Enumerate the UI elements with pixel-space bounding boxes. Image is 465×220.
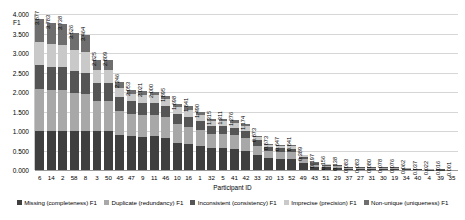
bar-stack[interactable]: 3.738	[58, 24, 67, 170]
bar-stack[interactable]: 0.083	[356, 167, 365, 170]
bar-stack[interactable]: 2.809	[104, 60, 113, 170]
bar-segment[interactable]	[138, 103, 147, 115]
bar-segment[interactable]	[81, 131, 90, 170]
bar-segment[interactable]	[276, 159, 285, 170]
bar-stack[interactable]: 2.021	[138, 91, 147, 170]
bar-column[interactable]: 1.641	[183, 14, 194, 170]
bar-segment[interactable]	[35, 65, 44, 89]
bar-segment[interactable]	[219, 148, 228, 170]
bar-segment[interactable]	[196, 121, 205, 130]
bar-segment[interactable]	[241, 138, 250, 151]
bar-segment[interactable]	[253, 155, 262, 170]
bar-segment[interactable]	[115, 97, 124, 111]
bar-stack[interactable]: 1.311	[219, 119, 228, 170]
bar-column[interactable]: 0.156	[320, 14, 331, 170]
bar-stack[interactable]: 2.053	[127, 90, 136, 170]
bar-stack[interactable]: 0.673	[264, 144, 273, 170]
legend-item[interactable]: Inconsistent (consistency) F1	[190, 199, 276, 206]
bar-segment[interactable]	[207, 134, 216, 148]
bar-column[interactable]: 2.021	[137, 14, 148, 170]
bar-column[interactable]: 0.873	[252, 14, 263, 170]
bar-segment[interactable]	[150, 115, 159, 136]
bar-segment[interactable]	[150, 136, 159, 170]
bar-segment[interactable]	[58, 67, 67, 90]
bar-segment[interactable]	[219, 134, 228, 148]
bar-segment[interactable]	[161, 138, 170, 170]
bar-column[interactable]: 1.315	[206, 14, 217, 170]
bar-column[interactable]: 0.078	[378, 14, 389, 170]
bar-segment[interactable]	[70, 131, 79, 170]
bar-segment[interactable]	[93, 70, 102, 83]
bar-stack[interactable]: 3.783	[47, 23, 56, 171]
bar-segment[interactable]	[207, 126, 216, 134]
bar-segment[interactable]	[35, 42, 44, 65]
bar-segment[interactable]	[35, 131, 44, 170]
bar-column[interactable]: 2.246	[114, 14, 125, 170]
bar-stack[interactable]: 3.877	[35, 19, 44, 170]
bar-column[interactable]: 0.647	[275, 14, 286, 170]
bar-segment[interactable]	[207, 148, 216, 170]
bar-column[interactable]: 0.389	[297, 14, 308, 170]
bar-stack[interactable]: 0.389	[299, 155, 308, 170]
bar-segment[interactable]	[58, 45, 67, 67]
bar-segment[interactable]	[47, 90, 56, 131]
bar-segment[interactable]	[219, 126, 228, 134]
bar-column[interactable]: 0.138	[332, 14, 343, 170]
bar-stack[interactable]: 3.464	[81, 35, 90, 170]
bar-stack[interactable]: 1.174	[241, 124, 250, 170]
bar-column[interactable]: 0.001	[446, 14, 457, 170]
bar-stack[interactable]: 0.037	[413, 169, 422, 170]
bar-segment[interactable]	[58, 90, 67, 131]
bar-stack[interactable]: 0.078	[379, 167, 388, 170]
bar-segment[interactable]	[138, 137, 147, 170]
bar-segment[interactable]	[47, 67, 56, 90]
bar-segment[interactable]	[276, 152, 285, 159]
bar-stack[interactable]: 1.490	[196, 112, 205, 170]
legend-item[interactable]: Missing (completeness) F1	[17, 199, 97, 206]
bar-stack[interactable]: 0.873	[253, 136, 262, 170]
bar-segment[interactable]	[47, 131, 56, 170]
bar-column[interactable]: 0.083	[355, 14, 366, 170]
legend-item[interactable]: Imprecise (precision) F1	[284, 199, 357, 206]
bar-segment[interactable]	[70, 93, 79, 131]
bar-segment[interactable]	[93, 131, 102, 170]
bar-segment[interactable]	[81, 52, 90, 73]
bar-segment[interactable]	[184, 117, 193, 127]
bar-column[interactable]: 0.673	[263, 14, 274, 170]
bar-segment[interactable]	[264, 158, 273, 170]
bar-column[interactable]: 0.076	[389, 14, 400, 170]
bar-stack[interactable]: 0.647	[276, 145, 285, 170]
bar-stack[interactable]: 0.080	[367, 167, 376, 170]
bar-column[interactable]: 1.311	[217, 14, 228, 170]
bar-column[interactable]: 2.053	[126, 14, 137, 170]
bar-stack[interactable]: 0.076	[390, 167, 399, 170]
bar-segment[interactable]	[115, 111, 124, 135]
bar-segment[interactable]	[104, 70, 113, 83]
bar-segment[interactable]	[70, 50, 79, 71]
bar-column[interactable]: 0.022	[423, 14, 434, 170]
bar-column[interactable]: 0.641	[286, 14, 297, 170]
bar-column[interactable]: 2.809	[103, 14, 114, 170]
bar-column[interactable]: 3.877	[34, 14, 45, 170]
bar-segment[interactable]	[58, 131, 67, 170]
bar-segment[interactable]	[230, 135, 239, 149]
bar-segment[interactable]	[184, 127, 193, 145]
bar-segment[interactable]	[196, 146, 205, 170]
bar-segment[interactable]	[47, 44, 56, 67]
bar-segment[interactable]	[253, 146, 262, 155]
bar-stack[interactable]: 0.062	[402, 168, 411, 170]
legend-item[interactable]: Duplicate (redundancy) F1	[104, 199, 183, 206]
bar-segment[interactable]	[264, 151, 273, 158]
bar-stack[interactable]: 2.246	[115, 82, 124, 170]
bar-column[interactable]: 0.037	[412, 14, 423, 170]
bar-stack[interactable]: 0.083	[344, 167, 353, 170]
bar-segment[interactable]	[127, 136, 136, 170]
bar-column[interactable]: 1.895	[160, 14, 171, 170]
bar-column[interactable]: 0.197	[309, 14, 320, 170]
bar-column[interactable]: 0.080	[366, 14, 377, 170]
bar-column[interactable]: 1.174	[240, 14, 251, 170]
bar-segment[interactable]	[184, 144, 193, 170]
bar-segment[interactable]	[81, 73, 90, 94]
bar-column[interactable]: 3.464	[80, 14, 91, 170]
bar-stack[interactable]: 0.156	[322, 164, 331, 170]
